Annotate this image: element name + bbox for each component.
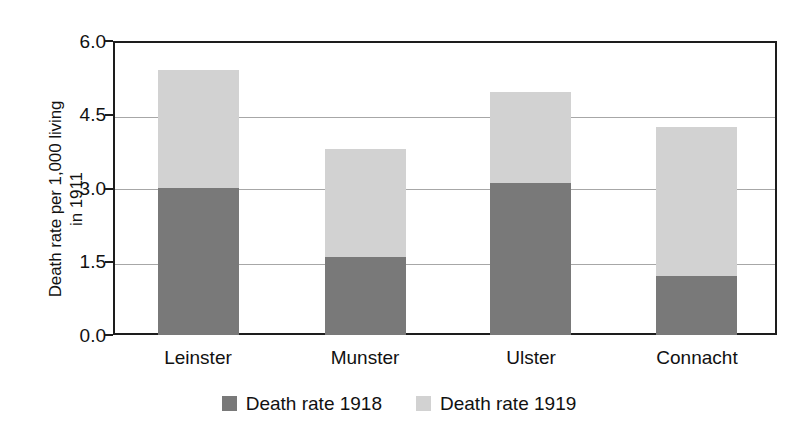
y-tick-mark-1-5 <box>105 261 113 263</box>
legend-swatch-1918-icon <box>222 396 237 411</box>
y-tick-label-4-5: 4.5 <box>36 105 106 124</box>
x-tick-label-munster: Munster <box>290 347 440 369</box>
bar-segment-connacht-1918[interactable] <box>656 276 737 335</box>
legend-swatch-1919-icon <box>416 396 431 411</box>
y-axis-title: Death rate per 1,000 living in 1911 <box>45 39 87 359</box>
legend-label-1918: Death rate 1918 <box>246 394 382 413</box>
x-tick-label-ulster: Ulster <box>456 347 606 369</box>
stacked-bar-chart: Death rate per 1,000 living in 1911 6.0 … <box>0 0 798 445</box>
y-tick-label-1-5: 1.5 <box>36 252 106 271</box>
y-tick-mark-3-0 <box>105 188 113 190</box>
bar-segment-leinster-1918[interactable] <box>158 188 239 335</box>
y-tick-label-3-0: 3.0 <box>36 179 106 198</box>
y-tick-label-6-0: 6.0 <box>36 32 106 51</box>
y-tick-mark-0-0 <box>105 334 113 336</box>
chart-legend: Death rate 1918 Death rate 1919 <box>0 394 798 413</box>
x-tick-label-leinster: Leinster <box>123 347 273 369</box>
y-tick-mark-4-5 <box>105 114 113 116</box>
x-tick-label-connacht: Connacht <box>622 347 772 369</box>
bar-segment-connacht-1919[interactable] <box>656 127 737 276</box>
bars-layer <box>113 41 777 335</box>
bar-segment-leinster-1919[interactable] <box>158 70 239 188</box>
legend-item-1918[interactable]: Death rate 1918 <box>222 394 382 413</box>
bar-segment-ulster-1918[interactable] <box>490 183 571 335</box>
y-tick-mark-6-0 <box>105 40 113 42</box>
bar-segment-munster-1919[interactable] <box>325 149 406 257</box>
bar-segment-ulster-1919[interactable] <box>490 92 571 183</box>
y-tick-label-0-0: 0.0 <box>36 326 106 345</box>
legend-label-1919: Death rate 1919 <box>440 394 576 413</box>
legend-item-1919[interactable]: Death rate 1919 <box>416 394 576 413</box>
bar-segment-munster-1918[interactable] <box>325 257 406 335</box>
